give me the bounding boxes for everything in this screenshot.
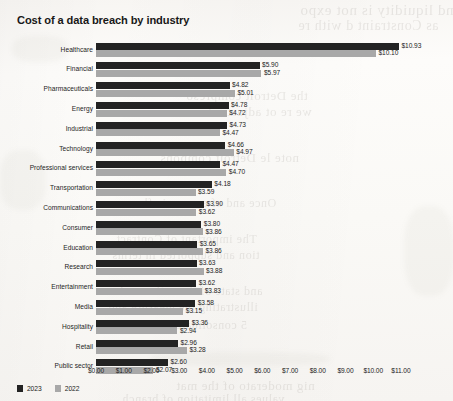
bar-group: Industrial$4.73$4.47 xyxy=(0,120,453,140)
bar-2023 xyxy=(96,142,225,149)
x-axis-tick-label: $8.00 xyxy=(310,367,326,374)
bar-2022 xyxy=(96,327,177,334)
legend-label: 2022 xyxy=(65,385,80,392)
bar-value-label: $3.63 xyxy=(199,259,215,266)
category-label: Professional services xyxy=(0,164,93,171)
bar-group: Retail$2.96$3.28 xyxy=(0,338,453,358)
bar-value-label: $4.73 xyxy=(230,121,246,128)
bar-group: Media$3.58$3.15 xyxy=(0,298,453,318)
bar-value-label: $2.96 xyxy=(181,339,197,346)
bar-group: Professional services$4.47$4.70 xyxy=(0,160,453,180)
bar-2023 xyxy=(96,43,399,50)
category-label: Entertainment xyxy=(0,283,93,290)
bar-2022 xyxy=(96,70,261,77)
category-label: Hospitality xyxy=(0,323,93,330)
category-label: Energy xyxy=(0,105,93,112)
bar-value-label: $3.86 xyxy=(205,228,221,235)
bar-value-label: $3.65 xyxy=(200,240,216,247)
bar-2023 xyxy=(96,320,189,327)
bar-2023 xyxy=(96,82,230,89)
bar-group: Healthcare$10.93$10.10 xyxy=(0,41,453,61)
category-label: Consumer xyxy=(0,224,93,231)
x-axis-tick-label: $3.00 xyxy=(171,367,187,374)
bar-2022 xyxy=(96,308,183,315)
category-label: Financial xyxy=(0,65,93,72)
bar-value-label: $4.70 xyxy=(229,168,245,175)
category-label: Retail xyxy=(0,343,93,350)
bar-2022 xyxy=(96,50,376,57)
x-axis-tick-label: $2.00 xyxy=(143,367,159,374)
bar-2023 xyxy=(96,221,201,228)
bar-2023 xyxy=(96,260,197,267)
bar-2023 xyxy=(96,201,204,208)
x-axis-tick-label: $1.00 xyxy=(116,367,132,374)
x-axis-tick-label: $11.00 xyxy=(391,367,410,374)
bar-2022 xyxy=(96,268,204,275)
bar-value-label: $4.66 xyxy=(228,141,244,148)
bar-value-label: $10.93 xyxy=(401,42,421,49)
bar-value-label: $3.88 xyxy=(206,267,222,274)
chart-legend: 20232022 xyxy=(17,385,80,392)
legend-swatch-icon xyxy=(17,385,23,391)
bar-value-label: $3.62 xyxy=(199,208,215,215)
bar-group: Transportation$4.18$3.59 xyxy=(0,180,453,200)
x-axis: $0.00$1.00$2.00$3.00$4.00$5.00$6.00$7.00… xyxy=(0,367,453,381)
bar-group: Hospitality$3.36$2.94 xyxy=(0,318,453,338)
x-axis-tick-label: $7.00 xyxy=(282,367,298,374)
bar-2023 xyxy=(96,181,212,188)
bar-group: Entertainment$3.62$3.83 xyxy=(0,279,453,299)
bar-value-label: $4.18 xyxy=(214,180,230,187)
category-label: Communications xyxy=(0,204,93,211)
category-label: Healthcare xyxy=(0,46,93,53)
x-axis-tick-label: $9.00 xyxy=(337,367,353,374)
category-label: Technology xyxy=(0,145,93,152)
bar-group: Pharmaceuticals$4.82$5.01 xyxy=(0,81,453,101)
bar-value-label: $2.94 xyxy=(180,327,196,334)
x-axis-tick-label: $4.00 xyxy=(199,367,215,374)
bar-2023 xyxy=(96,161,220,168)
bar-2023 xyxy=(96,280,196,287)
bar-2023 xyxy=(96,340,178,347)
bar-2022 xyxy=(96,347,187,354)
bar-value-label: $4.82 xyxy=(232,81,248,88)
bar-value-label: $3.83 xyxy=(205,287,221,294)
bar-2022 xyxy=(96,110,227,117)
bar-2022 xyxy=(96,248,203,255)
bar-value-label: $3.15 xyxy=(186,307,202,314)
category-label: Media xyxy=(0,303,93,310)
bar-value-label: $5.90 xyxy=(262,61,278,68)
bar-2022 xyxy=(96,288,202,295)
bar-2022 xyxy=(96,90,235,97)
bar-value-label: $3.80 xyxy=(204,220,220,227)
x-axis-tick-label: $5.00 xyxy=(227,367,243,374)
bar-value-label: $4.47 xyxy=(222,160,238,167)
bar-group: Communications$3.90$3.62 xyxy=(0,199,453,219)
bar-value-label: $3.86 xyxy=(205,247,221,254)
legend-swatch-icon xyxy=(55,385,61,391)
legend-label: 2023 xyxy=(27,385,42,392)
category-label: Research xyxy=(0,263,93,270)
x-axis-tick-label: $0.00 xyxy=(88,367,104,374)
legend-item[interactable]: 2022 xyxy=(55,385,80,392)
bar-value-label: $4.78 xyxy=(231,101,247,108)
bar-value-label: $4.72 xyxy=(229,109,245,116)
legend-item[interactable]: 2023 xyxy=(17,385,42,392)
category-label: Pharmaceuticals xyxy=(0,85,93,92)
bar-2022 xyxy=(96,209,196,216)
chart-panel: Cost of a data breach by industry Health… xyxy=(0,0,453,401)
bar-2022 xyxy=(96,228,203,235)
bar-2022 xyxy=(96,149,234,156)
scanned-page: nd liquidity is not expo as Constraint d… xyxy=(0,0,453,401)
bar-2023 xyxy=(96,102,229,109)
bar-2022 xyxy=(96,169,226,176)
bar-value-label: $4.47 xyxy=(222,129,238,136)
chart-title: Cost of a data breach by industry xyxy=(17,14,189,26)
bar-value-label: $5.97 xyxy=(264,69,280,76)
bar-group: Education$3.65$3.86 xyxy=(0,239,453,259)
bar-value-label: $3.59 xyxy=(198,188,214,195)
bar-2023 xyxy=(96,122,227,129)
bar-value-label: $3.90 xyxy=(207,200,223,207)
bar-value-label: $5.01 xyxy=(237,89,253,96)
bar-group: Energy$4.78$4.72 xyxy=(0,100,453,120)
category-label: Transportation xyxy=(0,184,93,191)
